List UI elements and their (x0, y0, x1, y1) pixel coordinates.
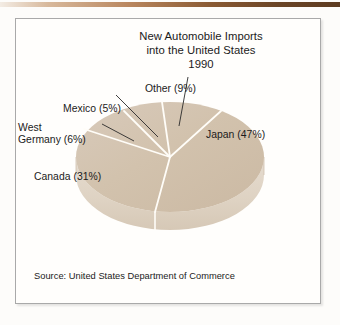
figure-inner: New Automobile Imports into the United S… (16, 19, 320, 303)
pie-chart (16, 19, 322, 305)
pie-label-other: Other (9%) (145, 83, 196, 95)
source-note: Source: United States Department of Comm… (34, 271, 235, 281)
pie-label-west-germany: West Germany (6%) (18, 122, 104, 147)
pie-label-japan: Japan (47%) (206, 129, 265, 141)
figure-frame: New Automobile Imports into the United S… (15, 18, 321, 304)
pie-label-canada: Canada (31%) (34, 171, 101, 183)
pie-label-west-germany-line2: Germany (6%) (18, 134, 104, 146)
pie-label-west-germany-line1: West (18, 122, 104, 134)
page-top-rule (0, 2, 340, 7)
pie-label-mexico: Mexico (5%) (63, 103, 121, 115)
